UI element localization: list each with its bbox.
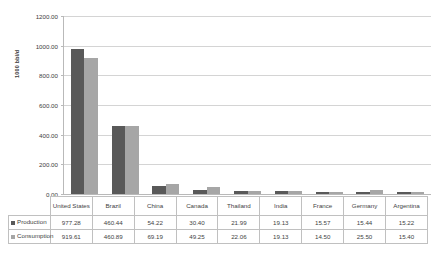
bar-production	[112, 126, 125, 194]
table-value-cell: 15.57	[302, 216, 344, 230]
bar-production	[152, 186, 165, 194]
bar-group	[64, 16, 105, 194]
table-value-cell: 460.44	[92, 216, 134, 230]
bar-group	[186, 16, 227, 194]
bar-consumption	[411, 192, 424, 194]
y-axis-title: 1000 bbl/d	[14, 50, 20, 78]
category-header-cell: France	[302, 197, 344, 216]
table-value-cell: 15.40	[386, 230, 428, 244]
y-axis-tick-labels: 0.00200.00400.00600.00800.001000.001200.…	[28, 16, 62, 194]
plot-area	[63, 16, 431, 194]
table-value-cell: 919.61	[50, 230, 92, 244]
table-value-cell: 14.50	[302, 230, 344, 244]
table-value-cell: 19.13	[260, 230, 302, 244]
bar-group	[309, 16, 350, 194]
y-axis-tick-label: 600.00	[39, 102, 58, 109]
bar-group	[146, 16, 187, 194]
plot-region: 1000 bbl/d 0.00200.00400.00600.00800.001…	[0, 0, 440, 196]
legend-label: Production	[17, 219, 47, 226]
bar-production	[193, 190, 206, 195]
bar-consumption	[84, 58, 97, 194]
axis-baseline	[64, 194, 431, 195]
legend-entry-production: Production	[9, 216, 51, 230]
table-value-cell: 22.06	[218, 230, 260, 244]
bar-consumption	[125, 126, 138, 194]
bar-production	[275, 191, 288, 194]
bar-group	[105, 16, 146, 194]
category-header-cell: United States	[50, 197, 92, 216]
y-axis-tick-label: 1000.00	[36, 42, 58, 49]
bar-group	[390, 16, 431, 194]
bar-consumption	[166, 184, 179, 194]
table-value-cell: 49.25	[176, 230, 218, 244]
legend-swatch-icon	[11, 235, 15, 239]
table-value-cell: 30.40	[176, 216, 218, 230]
table-corner-cell	[9, 197, 51, 216]
category-header-cell: India	[260, 197, 302, 216]
legend-label: Consumption	[17, 233, 53, 240]
y-axis-tick-label: 200.00	[39, 161, 58, 168]
bar-group	[227, 16, 268, 194]
bar-production	[234, 191, 247, 194]
bar-consumption	[370, 190, 383, 194]
category-header-cell: Canada	[176, 197, 218, 216]
table-row: Production977.28460.4454.2230.4021.9919.…	[9, 216, 428, 230]
table-value-cell: 977.28	[50, 216, 92, 230]
table-row: Consumption919.61460.8969.1949.2522.0619…	[9, 230, 428, 244]
category-header-cell: Thailand	[218, 197, 260, 216]
table-value-cell: 25.50	[344, 230, 386, 244]
bar-chart-with-data-table: 1000 bbl/d 0.00200.00400.00600.00800.001…	[0, 0, 440, 254]
bar-consumption	[207, 187, 220, 194]
y-axis-tick-label: 800.00	[39, 72, 58, 79]
bar-consumption	[329, 192, 342, 194]
chart-data-table: United StatesBrazilChinaCanadaThailandIn…	[8, 196, 428, 244]
table-value-cell: 54.22	[134, 216, 176, 230]
bar-production	[397, 192, 410, 194]
table-value-cell: 19.13	[260, 216, 302, 230]
bar-production	[316, 192, 329, 194]
category-header-cell: China	[134, 197, 176, 216]
category-header-cell: Germany	[344, 197, 386, 216]
y-axis-tick-label: 400.00	[39, 131, 58, 138]
y-axis-tick-mark	[61, 194, 64, 195]
table-value-cell: 460.89	[92, 230, 134, 244]
table-header-row: United StatesBrazilChinaCanadaThailandIn…	[9, 197, 428, 216]
legend-entry-consumption: Consumption	[9, 230, 51, 244]
bar-consumption	[288, 191, 301, 194]
table-value-cell: 15.44	[344, 216, 386, 230]
category-header-cell: Argentina	[386, 197, 428, 216]
bar-group	[268, 16, 309, 194]
y-axis-tick-label: 1200.00	[36, 13, 58, 20]
legend-swatch-icon	[11, 221, 15, 225]
bar-production	[356, 192, 369, 194]
bar-consumption	[248, 191, 261, 194]
bar-groups	[64, 16, 431, 194]
bar-group	[349, 16, 390, 194]
category-header-cell: Brazil	[92, 197, 134, 216]
table-value-cell: 21.99	[218, 216, 260, 230]
table-value-cell: 15.22	[386, 216, 428, 230]
bar-production	[71, 49, 84, 194]
table-value-cell: 69.19	[134, 230, 176, 244]
